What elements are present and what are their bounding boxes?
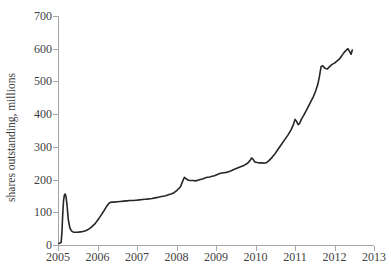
x-tick-mark bbox=[256, 246, 257, 251]
y-tick-mark bbox=[53, 16, 58, 17]
y-tick-mark bbox=[53, 212, 58, 213]
x-tick-mark bbox=[335, 246, 336, 251]
y-tick-mark bbox=[53, 114, 58, 115]
series-path bbox=[59, 49, 352, 244]
y-tick-mark bbox=[53, 49, 58, 50]
y-tick-mark bbox=[53, 81, 58, 82]
y-tick-mark bbox=[53, 180, 58, 181]
x-tick-mark bbox=[98, 246, 99, 251]
x-tick-mark bbox=[295, 246, 296, 251]
x-tick-mark bbox=[137, 246, 138, 251]
x-tick-mark bbox=[177, 246, 178, 251]
x-tick-mark bbox=[58, 246, 59, 251]
x-tick-mark bbox=[374, 246, 375, 251]
y-tick-mark bbox=[53, 147, 58, 148]
x-tick-mark bbox=[216, 246, 217, 251]
